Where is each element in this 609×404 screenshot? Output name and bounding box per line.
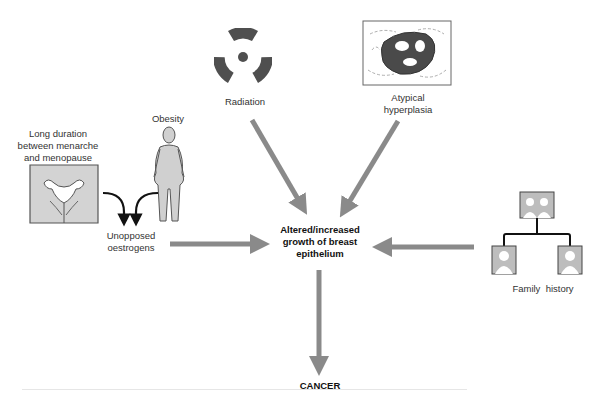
label-line: Unopposed bbox=[96, 230, 166, 242]
hyperplasia-arrow bbox=[345, 121, 398, 209]
uterus-icon bbox=[26, 163, 104, 225]
altered-growth-node: Altered/increased growth of breast epith… bbox=[270, 224, 370, 260]
duration-to-oestrogens-arrow bbox=[103, 193, 124, 220]
radiation-icon bbox=[214, 28, 272, 86]
cancer-outcome: CANCER bbox=[290, 380, 350, 392]
atypical-hyperplasia-label: Atypical hyperplasia bbox=[368, 92, 448, 116]
label-line: hyperplasia bbox=[368, 104, 448, 116]
divider bbox=[22, 389, 467, 390]
unopposed-oestrogens-label: Unopposed oestrogens bbox=[96, 230, 166, 254]
family-tree-icon bbox=[490, 190, 590, 280]
obese-woman-icon bbox=[150, 125, 190, 225]
label-line: oestrogens bbox=[96, 242, 166, 254]
family-history-label: Family history bbox=[500, 283, 586, 295]
radiation-arrow bbox=[252, 120, 302, 206]
obesity-label: Obesity bbox=[148, 113, 188, 125]
label-line: Long duration bbox=[8, 128, 108, 140]
label-line: Altered/increased bbox=[270, 224, 370, 236]
hyperplasia-tissue-icon bbox=[362, 20, 452, 86]
label-line: epithelium bbox=[270, 248, 370, 260]
label-line: growth of breast bbox=[270, 236, 370, 248]
label-line: between menarche bbox=[8, 140, 108, 152]
label-line: Atypical bbox=[368, 92, 448, 104]
radiation-label: Radiation bbox=[218, 96, 272, 108]
long-duration-label: Long duration between menarche and menop… bbox=[8, 128, 108, 164]
